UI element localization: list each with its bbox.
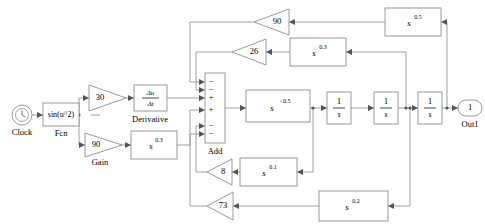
arrow-into-s03top: [346, 49, 352, 55]
clock-block[interactable]: [12, 105, 32, 125]
s-neg-0-5-box: [246, 90, 310, 122]
gain-8-label: 8: [221, 166, 225, 176]
arrow-into-derivative: [128, 95, 134, 101]
arrow-into-gain30: [83, 95, 89, 101]
arrow-into-gain73: [233, 203, 239, 209]
add-caption: Add: [208, 146, 223, 156]
s-0-1-box: [240, 158, 297, 186]
s-0-3-left-block[interactable]: s 0.3: [131, 131, 177, 159]
gain-30[interactable]: 30: [89, 85, 126, 111]
s-0-3-left-base: s: [149, 141, 153, 151]
gain-90-left-triangle: [85, 133, 122, 157]
fcn-caption: Fcn: [55, 128, 69, 138]
s-0-3-top-box: [290, 38, 346, 66]
arrow-add-in-4: [199, 107, 205, 113]
arrow-into-gain26: [266, 49, 272, 55]
fcn-block[interactable]: sin(u^2): [43, 103, 79, 126]
integrator-1-numerator: 1: [337, 96, 342, 106]
integrator-2[interactable]: 1 s: [374, 92, 398, 124]
integrator-2-numerator: 1: [384, 96, 389, 106]
arrow-into-int2: [368, 105, 374, 111]
arrow-into-gain90gain: [79, 142, 85, 148]
derivative-numerator: Δu: [146, 89, 155, 97]
arrow-into-int3: [412, 105, 418, 111]
add-sign-3: +: [209, 93, 214, 102]
gain-73-label: 73: [219, 200, 228, 210]
arrow-into-s02: [388, 203, 394, 209]
diagram-svg: Clock sin(u^2) Fcn 30 Δu Δt Derivative 9…: [0, 0, 485, 224]
clock-caption: Clock: [12, 127, 33, 137]
junction-int1-out: [311, 106, 314, 109]
junction-int3-down: [408, 106, 411, 109]
integrator-1-denominator: s: [337, 110, 340, 119]
integrator-3-denominator: s: [428, 110, 431, 119]
arrow-into-s05top: [441, 19, 447, 25]
s-0-3-left-box: [131, 131, 177, 159]
out1-label: 1: [468, 102, 472, 112]
gain-8-triangle: [207, 159, 232, 185]
arrow-into-gain90top: [289, 19, 295, 25]
gain-90-top-triangle: [254, 9, 289, 35]
fcn-label: sin(u^2): [48, 110, 75, 119]
gain-90-left-label: 90: [92, 139, 101, 149]
gain-90-left[interactable]: 90: [85, 133, 122, 157]
s-neg-0-5-exponent: −0.5: [280, 98, 291, 104]
integrator-1[interactable]: 1 s: [327, 92, 351, 124]
gain-90-top-label: 90: [273, 16, 282, 26]
block-diagram-canvas: Clock sin(u^2) Fcn 30 Δu Δt Derivative 9…: [0, 0, 485, 224]
integrator-3[interactable]: 1 s: [418, 92, 442, 124]
gain-90-top[interactable]: 90: [254, 9, 289, 35]
out1-port[interactable]: 1: [458, 100, 482, 116]
s-0-5-top-base: s: [407, 18, 411, 28]
s-0-1-exponent: 0.1: [269, 164, 277, 170]
gain-26[interactable]: 26: [232, 39, 266, 65]
s-neg-0-5-base: s: [270, 103, 274, 113]
arrow-into-fcn: [37, 112, 43, 118]
add-sign-4: +: [209, 105, 214, 114]
s-0-5-top-box: [385, 8, 441, 36]
arrow-into-int1: [321, 105, 327, 111]
out1-caption: Out1: [462, 119, 479, 129]
arrow-add-in-5: [199, 123, 205, 129]
wire-gain73-add: [190, 134, 207, 206]
gain-8[interactable]: 8: [207, 159, 232, 185]
arrow-into-s03left: [125, 142, 131, 148]
gain-30-triangle: [89, 85, 126, 111]
s-0-3-top-block[interactable]: s 0.3: [290, 38, 346, 66]
gain-90-left-caption: Gain: [92, 157, 109, 167]
s-0-1-base: s: [262, 168, 266, 178]
wire-fcn-branch-up: [79, 98, 89, 115]
junction-int3-out: [445, 106, 448, 109]
arrow-into-sneg05: [240, 105, 246, 111]
add-sign-6: −: [209, 129, 214, 138]
s-0-5-top-exponent: 0.5: [414, 14, 422, 20]
arrow-add-in-2: [199, 87, 205, 93]
gain-26-label: 26: [250, 46, 259, 56]
derivative-block[interactable]: Δu Δt: [134, 85, 167, 111]
integrator-3-numerator: 1: [428, 96, 433, 106]
s-0-1-block[interactable]: s 0.1: [240, 158, 297, 186]
derivative-caption: Derivative: [132, 114, 168, 124]
arrow-into-out1: [452, 105, 458, 111]
s-0-5-top-block[interactable]: s 0.5: [385, 8, 441, 36]
wire-fcn-branch-down: [79, 115, 85, 145]
s-0-2-box: [319, 191, 388, 221]
arrow-into-s01: [297, 169, 303, 175]
add-block[interactable]: − − + + − −: [205, 73, 225, 143]
gain-73[interactable]: 73: [207, 192, 233, 220]
s-0-3-left-exponent: 0.3: [155, 137, 163, 143]
gain-30-label: 30: [96, 92, 105, 102]
s-neg-0-5-block[interactable]: s −0.5: [246, 90, 310, 122]
s-0-2-block[interactable]: s 0.2: [319, 191, 388, 221]
derivative-denominator: Δt: [146, 100, 154, 108]
s-0-3-top-exponent: 0.3: [319, 44, 327, 50]
arrow-add-in-6: [199, 131, 205, 137]
s-0-2-base: s: [345, 202, 349, 212]
integrator-2-denominator: s: [384, 110, 387, 119]
s-0-3-top-base: s: [312, 48, 316, 58]
arrow-into-gain8: [232, 169, 238, 175]
junction-int2-out: [404, 106, 407, 109]
arrow-add-in-3: [199, 95, 205, 101]
arrow-add-in-1: [199, 79, 205, 85]
s-0-2-exponent: 0.2: [352, 198, 360, 204]
